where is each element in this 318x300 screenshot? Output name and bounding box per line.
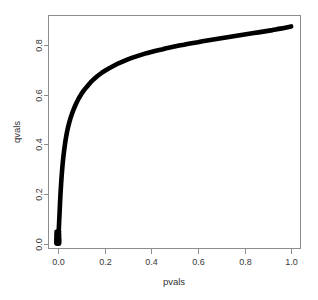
x-tick-label: 0.8	[239, 257, 252, 267]
qvals-points	[54, 229, 61, 245]
y-tick-label: 0.4	[34, 138, 44, 151]
r-plot-canvas: 0.00.20.40.60.81.0 0.00.20.40.60.8 pvals…	[0, 0, 318, 300]
x-tick-label: 0.4	[145, 257, 158, 267]
x-tick-label: 0.2	[99, 257, 112, 267]
y-tick-label: 0.6	[34, 89, 44, 102]
x-tick-label: 0.6	[192, 257, 205, 267]
data-point	[57, 229, 61, 233]
y-tick-label: 0.8	[34, 39, 44, 52]
x-tick-label: 1.0	[285, 257, 298, 267]
scatter-plot: 0.00.20.40.60.81.0 0.00.20.40.60.8 pvals…	[0, 0, 318, 300]
x-tick-label: 0.0	[52, 257, 65, 267]
y-tick-label: 0.2	[34, 188, 44, 201]
x-axis-title: pvals	[163, 276, 185, 287]
y-tick-label: 0.0	[34, 238, 44, 251]
y-axis-title: qvals	[11, 121, 22, 143]
